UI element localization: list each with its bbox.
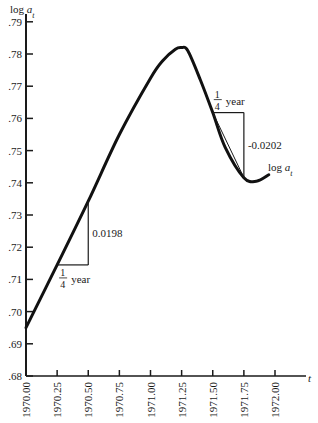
- fraction-denominator: 4: [60, 279, 65, 290]
- y-tick-label: .74: [8, 177, 22, 189]
- x-tick-label: 1970.25: [51, 382, 63, 418]
- ticks: .68.69.70.71.72.73.74.75.76.77.78.791970…: [8, 16, 281, 418]
- x-axis-label: t: [308, 372, 312, 384]
- y-tick-label: .79: [8, 16, 22, 28]
- y-tick-label: .68: [8, 370, 22, 382]
- fraction-denominator: 4: [215, 101, 220, 112]
- x-tick-label: 1970.50: [82, 382, 94, 418]
- x-tick-label: 1971.25: [176, 382, 188, 418]
- x-tick-label: 1971.50: [207, 382, 219, 418]
- year-label: year: [226, 95, 245, 107]
- axes: log att: [10, 3, 312, 384]
- x-tick-label: 1971.00: [145, 382, 157, 418]
- curve-label: log at: [268, 161, 293, 178]
- y-tick-label: .72: [8, 241, 22, 253]
- y-tick-label: .78: [8, 48, 22, 60]
- y-tick-label: .70: [8, 306, 22, 318]
- chart-svg: log att .68.69.70.71.72.73.74.75.76.77.7…: [0, 0, 318, 423]
- rise-label: -0.0202: [248, 139, 282, 151]
- year-label: year: [71, 273, 90, 285]
- fraction-numerator: 1: [215, 89, 220, 100]
- x-tick-label: 1970.00: [20, 382, 32, 418]
- y-tick-label: .71: [8, 273, 22, 285]
- chart-container: log att .68.69.70.71.72.73.74.75.76.77.7…: [0, 0, 318, 423]
- y-tick-label: .73: [8, 209, 22, 221]
- y-tick-label: .69: [8, 338, 22, 350]
- y-tick-label: .76: [8, 112, 22, 124]
- y-tick-label: .75: [8, 145, 22, 157]
- rise-label: 0.0198: [92, 227, 123, 239]
- fraction-numerator: 1: [60, 267, 65, 278]
- y-tick-label: .77: [8, 80, 22, 92]
- chord-line: [213, 113, 244, 178]
- x-tick-label: 1971.75: [238, 382, 250, 418]
- x-tick-label: 1972.00: [269, 382, 281, 418]
- x-tick-label: 1970.75: [113, 382, 125, 418]
